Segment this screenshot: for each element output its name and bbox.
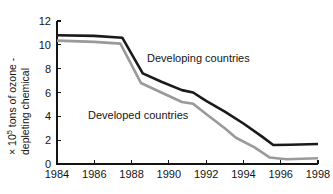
x-tick-label: 1998	[306, 168, 330, 180]
x-tick-label: 1990	[157, 168, 181, 180]
y-tick-label: 8	[45, 63, 51, 75]
x-tick-label: 1992	[194, 168, 218, 180]
y-axis-title-suffix: tons of ozone -	[6, 57, 18, 130]
series-annotation-developing: Developing countries	[147, 52, 250, 64]
chart-canvas: × 105 tons of ozone - depleting chemical…	[0, 0, 333, 194]
y-axis-title-line-2: depleting chemical	[19, 68, 31, 155]
x-axis-tick-labels: 19841986198819901992199419961998	[45, 168, 330, 180]
y-axis-title: × 105 tons of ozone - depleting chemical	[5, 57, 32, 155]
series-annotation-developed: Developed countries	[88, 109, 189, 121]
x-tick-label: 1996	[268, 168, 292, 180]
y-axis-title-prefix: × 10	[6, 134, 18, 155]
y-tick-label: 10	[39, 39, 51, 51]
x-tick-label: 1986	[82, 168, 106, 180]
y-tick-label: 12	[39, 15, 51, 27]
y-axis-title-line-1: × 105 tons of ozone -	[5, 57, 19, 155]
y-axis-tick-labels: 024681012	[39, 15, 51, 170]
x-tick-label: 1988	[119, 168, 143, 180]
ozone-depleting-chemical-line-chart: × 105 tons of ozone - depleting chemical…	[0, 0, 333, 194]
y-tick-label: 6	[45, 87, 51, 99]
y-tick-label: 2	[45, 134, 51, 146]
x-tick-label: 1984	[45, 168, 69, 180]
y-tick-label: 4	[45, 110, 51, 122]
x-tick-label: 1994	[231, 168, 255, 180]
